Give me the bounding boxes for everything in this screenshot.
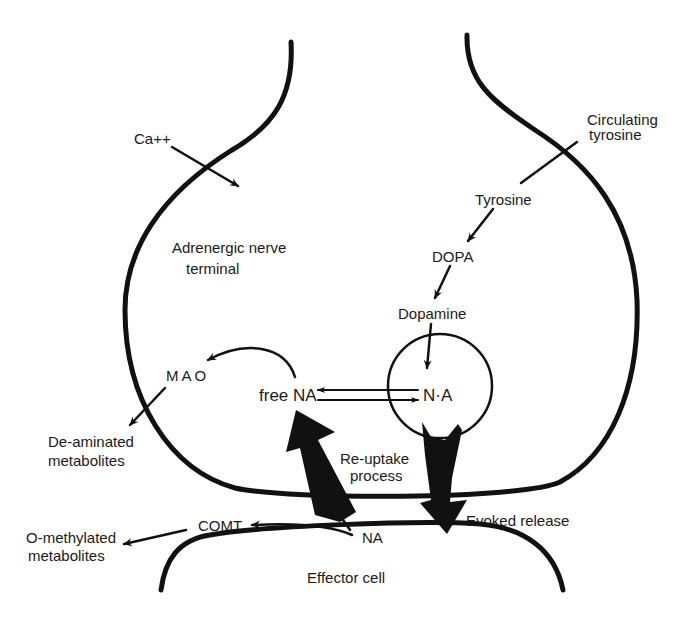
circulating-tyrosine-label: Circulating tyrosine — [587, 111, 662, 143]
reuptake-label: Re-uptake process — [340, 450, 413, 484]
adrenergic-terminal-diagram: Ca++ Circulating tyrosine Tyrosine DOPA … — [0, 0, 686, 624]
cleft-na-label: NA — [362, 529, 383, 546]
tyrosine-uptake-line — [521, 142, 577, 183]
calcium-label: Ca++ — [134, 130, 171, 147]
mao-to-deaminated-arrow — [130, 388, 165, 425]
terminal-label: Adrenergic nerve terminal — [172, 239, 290, 277]
deaminated-label: De-aminated metabolites — [48, 433, 138, 469]
dopa-label: DOPA — [432, 248, 473, 265]
vesicle-na-label: N·A — [423, 386, 453, 405]
effector-cell-label: Effector cell — [307, 569, 385, 586]
mao-label: MAO — [166, 367, 209, 384]
free-na-label: free NA — [259, 386, 317, 405]
comt-label: COMT — [198, 517, 242, 534]
free-na-to-mao-arrow — [208, 348, 295, 377]
dopamine-to-na-arrow — [427, 324, 431, 368]
evoked-release-label: Evoked release — [466, 512, 569, 529]
comt-to-omethylated-arrow — [124, 530, 186, 544]
dopamine-label: Dopamine — [398, 305, 466, 322]
tyrosine-label: Tyrosine — [475, 191, 532, 208]
omethylated-label: O-methylated metabolites — [26, 529, 120, 564]
tyrosine-to-dopa-arrow — [468, 209, 493, 241]
dopa-to-dopamine-arrow — [435, 266, 450, 298]
